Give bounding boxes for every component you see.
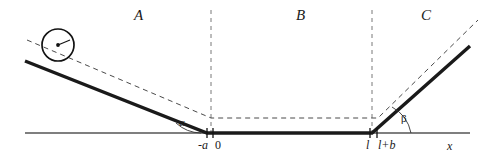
region-label-c: C (421, 8, 431, 23)
ball-center-dot (56, 43, 60, 47)
axis-tick-label-minus-a: -a (198, 139, 208, 151)
ball-center-trajectory-dashed-path (27, 20, 478, 118)
axis-tick-label-l-plus-b: l+b (378, 139, 395, 151)
axis-name-label-x: x (447, 140, 452, 152)
axis-tick-label-l: l (366, 139, 369, 151)
region-label-b: B (296, 8, 305, 23)
diagram-canvas (0, 0, 482, 164)
region-label-a: A (134, 8, 143, 23)
physics-track-diagram: A B C α β -a 0 l l+b x (0, 0, 482, 164)
axis-tick-label-zero: 0 (215, 139, 221, 151)
angle-label-alpha: α (179, 117, 185, 128)
angle-label-beta: β (401, 113, 407, 124)
